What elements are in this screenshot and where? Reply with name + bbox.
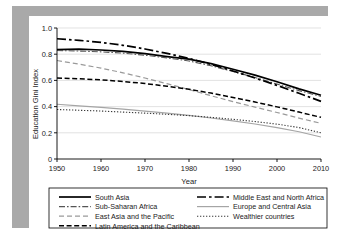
x-tick-label: 1950 (49, 164, 65, 173)
x-tick-label: 2000 (269, 164, 285, 173)
y-tick-label: 0.8 (42, 50, 52, 59)
legend-label-3: Latin America and the Caribbean (95, 222, 200, 231)
y-tick-label: 1.0 (42, 24, 52, 33)
legend-label-2: East Asia and the Pacific (95, 212, 175, 221)
y-tick-label: 0 (48, 155, 52, 164)
y-tick-label: 0.2 (42, 129, 52, 138)
x-axis-title: Year (181, 177, 197, 186)
x-tick-label: 2010 (313, 164, 329, 173)
legend-label-5: Europe and Central Asia (233, 202, 311, 211)
x-tick-label: 1980 (181, 164, 197, 173)
y-axis-ticks: 00.20.40.60.81.0 (42, 24, 57, 164)
plot-area-group: 00.20.40.60.81.0 19501960197019801990200… (42, 24, 330, 173)
education-gini-line-chart: 00.20.40.60.81.0 19501960197019801990200… (29, 16, 335, 231)
x-tick-label: 1970 (137, 164, 153, 173)
legend-label-1: Sub-Saharan Africa (95, 202, 157, 211)
y-axis-title: Education Gini Index (31, 69, 40, 139)
y-tick-label: 0.6 (42, 76, 52, 85)
figure-panel: 00.20.40.60.81.0 19501960197019801990200… (29, 16, 335, 231)
chart-screenshot: 00.20.40.60.81.0 19501960197019801990200… (0, 0, 340, 235)
legend-label-0: South Asia (95, 193, 129, 202)
figure-mount: 00.20.40.60.81.0 19501960197019801990200… (12, 6, 328, 228)
legend-label-4: Middle East and North Africa (233, 193, 324, 202)
plot-background (57, 28, 321, 159)
legend: South AsiaSub-Saharan AfricaEast Asia an… (49, 188, 327, 231)
legend-label-6: Wealthier countries (233, 212, 295, 221)
x-tick-label: 1990 (225, 164, 241, 173)
x-axis-ticks: 1950196019701980199020002010 (49, 159, 329, 173)
y-tick-label: 0.4 (42, 102, 52, 111)
x-tick-label: 1960 (93, 164, 109, 173)
